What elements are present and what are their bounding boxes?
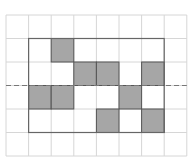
shaded-cell [142, 62, 165, 86]
shaded-cell [29, 86, 52, 110]
grid-diagram [0, 0, 192, 167]
shaded-cell [51, 86, 74, 110]
shaded-cell [96, 62, 119, 86]
shaded-cell [119, 86, 142, 110]
shaded-cell [51, 39, 74, 63]
shaded-cell [142, 109, 165, 133]
shaded-cell [96, 109, 119, 133]
shaded-cell [74, 62, 97, 86]
